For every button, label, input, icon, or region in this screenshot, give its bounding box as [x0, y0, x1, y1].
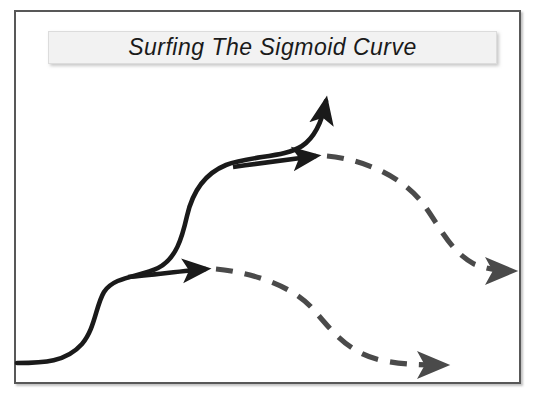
lower-decline-dashed — [216, 269, 444, 365]
main-sigmoid-curve — [17, 101, 326, 363]
upper-decline-dashed — [327, 156, 512, 271]
title-box: Surfing The Sigmoid Curve — [48, 31, 497, 64]
slide-canvas: Surfing The Sigmoid Curve — [0, 0, 538, 397]
page-title: Surfing The Sigmoid Curve — [128, 34, 417, 61]
